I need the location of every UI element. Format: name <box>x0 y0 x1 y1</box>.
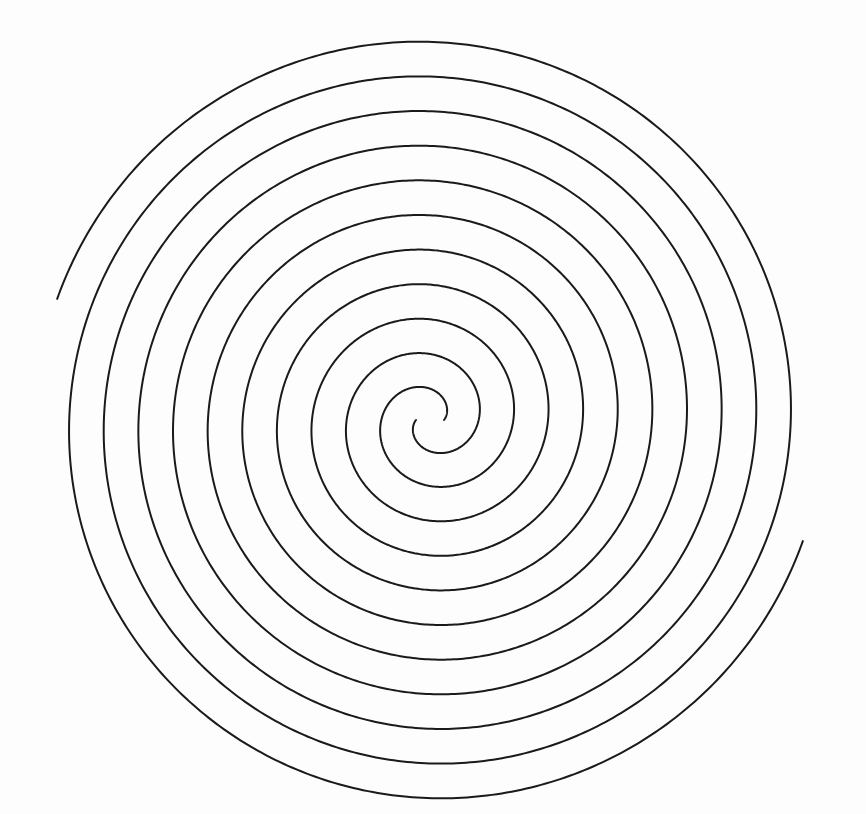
double-spiral-figure: Double Spiral Two interleaved Archimedea… <box>0 0 866 814</box>
figure-canvas: Double Spiral Two interleaved Archimedea… <box>0 0 866 814</box>
figure-background <box>0 0 866 814</box>
